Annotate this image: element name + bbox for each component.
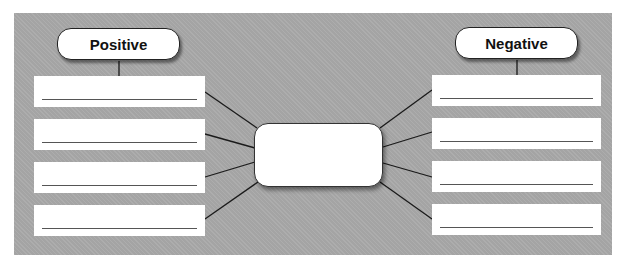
answer-line bbox=[440, 141, 593, 142]
negative-label-text: Negative bbox=[485, 35, 548, 52]
positive-label: Positive bbox=[57, 28, 180, 60]
negative-answer-box-2[interactable] bbox=[432, 118, 601, 149]
answer-line bbox=[42, 185, 197, 186]
negative-label: Negative bbox=[455, 27, 578, 59]
negative-answer-box-3[interactable] bbox=[432, 161, 601, 192]
positive-answer-box-4[interactable] bbox=[34, 205, 205, 236]
answer-line bbox=[440, 227, 593, 228]
answer-line bbox=[42, 228, 197, 229]
positive-answer-box-3[interactable] bbox=[34, 162, 205, 193]
answer-line bbox=[42, 142, 197, 143]
answer-line bbox=[440, 184, 593, 185]
positive-label-text: Positive bbox=[90, 36, 148, 53]
answer-line bbox=[440, 98, 593, 99]
negative-answer-box-4[interactable] bbox=[432, 204, 601, 235]
positive-answer-box-1[interactable] bbox=[34, 76, 205, 107]
positive-answer-box-2[interactable] bbox=[34, 119, 205, 150]
negative-answer-box-1[interactable] bbox=[432, 75, 601, 106]
answer-line bbox=[42, 99, 197, 100]
center-topic-box[interactable] bbox=[254, 123, 383, 187]
